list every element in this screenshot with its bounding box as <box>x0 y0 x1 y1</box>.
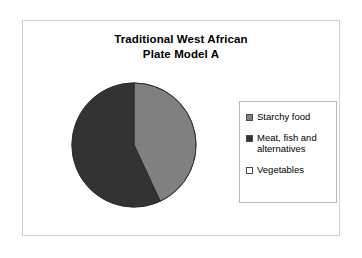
legend-item-starchy-food[interactable]: Starchy food <box>246 111 331 122</box>
chart-title: Traditional West African Plate Model A <box>23 32 339 61</box>
legend-item-vegetables[interactable]: Vegetables <box>246 164 331 175</box>
legend-swatch-icon <box>246 167 253 174</box>
pie-chart <box>71 82 197 208</box>
slide-frame: Traditional West African Plate Model A S… <box>22 20 340 236</box>
chart-title-line-1: Traditional West African <box>23 32 339 47</box>
legend-item-label: Vegetables <box>257 164 304 175</box>
legend-item-label: Starchy food <box>257 111 310 122</box>
chart-legend: Starchy food Meat, fish and alternatives… <box>239 101 337 203</box>
chart-title-line-2: Plate Model A <box>23 47 339 62</box>
pie-chart-svg <box>71 82 197 208</box>
legend-swatch-icon <box>246 114 253 121</box>
legend-item-label: Meat, fish and alternatives <box>257 132 317 154</box>
legend-swatch-icon <box>246 135 253 142</box>
legend-item-meat-fish-alternatives[interactable]: Meat, fish and alternatives <box>246 132 331 154</box>
